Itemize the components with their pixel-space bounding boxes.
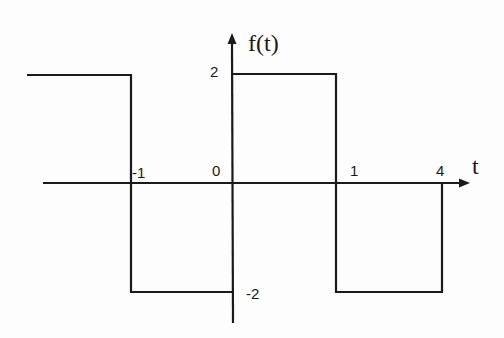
t-axis-arrow-icon <box>459 179 470 188</box>
tick-label-t-0: 0 <box>212 163 220 178</box>
tick-label-t-minus-1: -1 <box>132 165 145 180</box>
tick-label-y-2: 2 <box>210 64 218 79</box>
tick-label-t-1: 1 <box>350 163 358 178</box>
signal-diagram: f(t) t 2 -2 -1 0 1 4 <box>0 0 504 338</box>
tick-label-t-4: 4 <box>436 163 444 178</box>
f-axis <box>232 42 233 323</box>
t-axis-label: t <box>472 154 479 178</box>
function-label: f(t) <box>248 31 279 55</box>
f-axis-arrow-icon <box>228 33 237 44</box>
tick-label-y-minus-2: -2 <box>246 286 259 301</box>
